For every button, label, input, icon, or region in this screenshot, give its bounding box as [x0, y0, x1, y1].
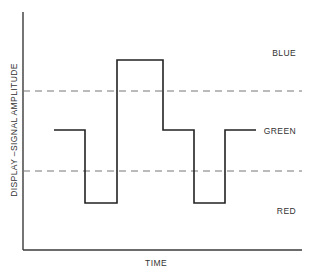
- y-axis-label: DISPLAY –SIGNAL AMPLITUDE: [9, 63, 19, 197]
- x-axis-label: TIME: [145, 258, 167, 268]
- level-label-red: RED: [277, 206, 296, 216]
- level-label-green: GREEN: [264, 126, 296, 136]
- signal-amplitude-diagram: BLUE GREEN RED TIME DISPLAY –SIGNAL AMPL…: [0, 0, 312, 275]
- level-label-blue: BLUE: [272, 48, 296, 58]
- signal-waveform: [54, 60, 256, 203]
